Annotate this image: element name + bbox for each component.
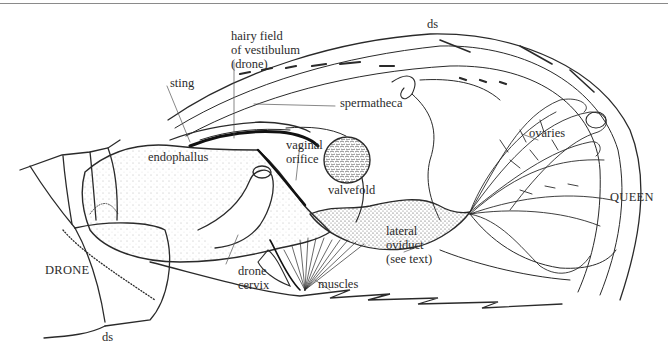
label-hairy-field-of-vestibulum: hairy field of vestibulum (drone): [231, 29, 300, 71]
spermatheca-sphere: [324, 137, 370, 183]
label-ds-top: ds: [427, 17, 438, 31]
label-drone-cervix: drone cervix: [238, 264, 269, 292]
label-ovaries: ovaries: [529, 126, 565, 140]
label-drone: DRONE: [45, 263, 90, 277]
label-muscles: muscles: [318, 277, 358, 291]
label-endophallus: endophallus: [148, 150, 208, 164]
anatomy-diagram: hairy field of vestibulum (drone) sting …: [0, 0, 668, 350]
label-vaginal-orifice: vaginal orifice: [286, 138, 323, 166]
diagram-artwork: [0, 0, 668, 350]
label-valvefold: valvefold: [328, 183, 375, 197]
label-ds-bottom: ds: [102, 330, 113, 344]
label-sting: sting: [170, 76, 194, 90]
label-queen: QUEEN: [610, 190, 654, 204]
label-spermatheca: spermatheca: [340, 96, 402, 110]
label-lateral-oviduct: lateral oviduct (see text): [386, 224, 432, 266]
